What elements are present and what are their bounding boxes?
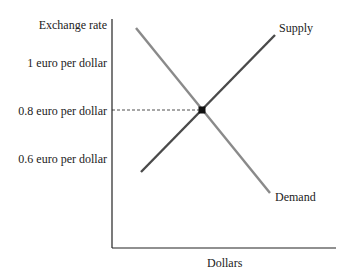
supply-label: Supply (279, 21, 313, 35)
y-tick-0-6: 0.6 euro per dollar (18, 152, 107, 166)
supply-demand-chart (0, 0, 352, 275)
demand-label: Demand (275, 190, 316, 204)
supply-curve (141, 35, 275, 172)
x-axis-label: Dollars (207, 256, 242, 270)
y-tick-1: 1 euro per dollar (27, 56, 107, 70)
equilibrium-point (199, 107, 206, 114)
y-axis-label: Exchange rate (39, 18, 107, 32)
y-tick-0-8: 0.8 euro per dollar (18, 104, 107, 118)
